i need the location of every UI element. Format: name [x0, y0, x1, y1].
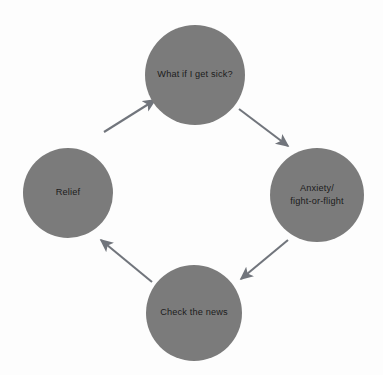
node-anxiety-fight-or-flight[interactable]: Anxiety/ fight-or-flight [270, 148, 364, 242]
edge-relief-to-what-if [104, 100, 155, 132]
node-label-relief: Relief [56, 187, 81, 197]
node-circle-right[interactable] [270, 148, 364, 242]
node-check-the-news[interactable]: Check the news [146, 265, 242, 361]
edge-check-the-news-to-relief [101, 240, 152, 282]
node-relief[interactable]: Relief [23, 148, 113, 238]
node-what-if-i-get-sick[interactable]: What if I get sick? [145, 25, 245, 125]
node-label-check-the-news: Check the news [160, 307, 228, 317]
anxiety-cycle-diagram: What if I get sick? Anxiety/ fight-or-fl… [0, 0, 383, 375]
edge-what-if-to-anxiety [239, 109, 288, 146]
edges-group [101, 100, 288, 282]
node-label-what-if-i-get-sick: What if I get sick? [157, 69, 232, 79]
node-label-anxiety-line-2: fight-or-flight [290, 196, 344, 206]
node-label-anxiety-line-1: Anxiety/ [300, 183, 334, 193]
diagram-canvas: What if I get sick? Anxiety/ fight-or-fl… [0, 0, 383, 375]
edge-anxiety-to-check-the-news [241, 240, 288, 279]
